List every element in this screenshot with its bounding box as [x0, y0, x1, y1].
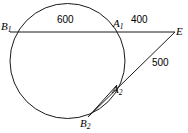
secant-line-b2-e [88, 32, 175, 117]
geometry-figure: B1 A1 E A2 B2 600 400 500 [0, 0, 188, 133]
point-label-b2: B2 [80, 118, 90, 129]
point-label-a2: A2 [112, 84, 122, 95]
point-label-a1: A1 [113, 18, 123, 29]
length-label-a2-e: 500 [152, 58, 169, 68]
length-label-a1-e: 400 [131, 15, 148, 25]
point-label-b1: B1 [1, 21, 11, 32]
length-label-b1-a1: 600 [57, 15, 74, 25]
point-label-e: E [176, 26, 183, 37]
